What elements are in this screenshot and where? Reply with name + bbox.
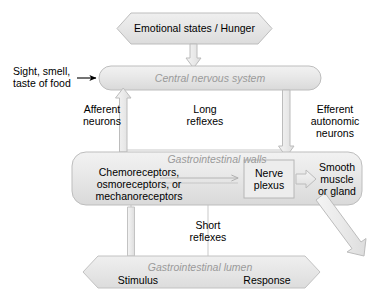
node-label-receptors-line2: osmoreceptors, or (78, 178, 200, 190)
label-short-reflexes-line2: reflexes (168, 231, 248, 243)
label-long-reflexes-line1: Long (165, 103, 245, 115)
node-label-effector-line1: Smooth (312, 161, 362, 173)
node-label-receptors-line3: mechanoreceptors (78, 190, 200, 202)
node-label-receptors-line1: Chemoreceptors, (78, 166, 200, 178)
label-efferent-line1: Efferent (295, 103, 375, 115)
node-label-gastrointestinal-lumen: Gastrointestinal lumen (110, 261, 290, 273)
diagram-svg (0, 0, 383, 300)
label-afferent-line1: Afferent (66, 103, 138, 115)
node-label-stimulus: Stimulus (103, 274, 173, 286)
node-label-response: Response (232, 274, 302, 286)
label-long-reflexes-line2: reflexes (165, 115, 245, 127)
node-label-gastrointestinal-walls: Gastrointestinal walls (132, 153, 302, 165)
label-short-reflexes-line1: Short (168, 219, 248, 231)
label-sensory-input-line1: Sight, smell, (13, 65, 83, 77)
node-label-effector-line2: muscle (312, 173, 362, 185)
node-label-nerve-plexus-line1: Nerve (244, 167, 294, 179)
label-sensory-input-line2: taste of food (13, 77, 83, 89)
diagram-canvas: Emotional states / Hunger Sight, smell, … (0, 0, 383, 300)
connector-emotional-to-cns (186, 44, 201, 68)
label-efferent-line2: autonomic (295, 115, 375, 127)
node-label-effector-line3: or gland (312, 185, 362, 197)
label-efferent-line3: neurons (295, 127, 375, 139)
connector-lumen-stimulus-up (128, 207, 135, 256)
connector-efferent-down-to-gi-walls (279, 90, 295, 157)
label-afferent-line2: neurons (66, 115, 138, 127)
node-label-central-nervous-system: Central nervous system (99, 72, 321, 84)
node-label-nerve-plexus-line2: plexus (244, 179, 294, 191)
node-label-emotional-states: Emotional states / Hunger (117, 22, 272, 34)
